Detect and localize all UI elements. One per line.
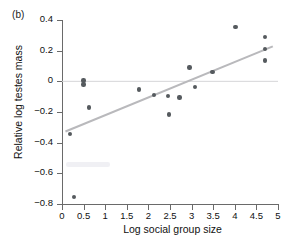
y-tick-label: 0.2 (19, 44, 53, 55)
x-axis-title: Log social group size (62, 223, 283, 235)
y-tick-label: −0.2 (19, 105, 53, 116)
data-point (210, 70, 214, 74)
y-tick-label: −0.8 (19, 197, 53, 208)
y-tick-label: 0 (19, 74, 53, 85)
x-tick-label: 5 (265, 210, 284, 221)
y-tick-label: −0.6 (19, 166, 53, 177)
data-point (263, 58, 267, 62)
y-tick-label: −0.4 (19, 136, 53, 147)
scatter-plot-figure: (b) Relative log testes mass Log social … (0, 0, 284, 245)
data-point (187, 65, 191, 69)
data-point (166, 94, 170, 98)
y-tick-label: 0.4 (19, 13, 53, 24)
data-point (167, 112, 171, 116)
data-point (233, 25, 237, 29)
data-point (137, 87, 141, 91)
data-point (81, 82, 85, 86)
data-point (177, 95, 181, 99)
regression-line (65, 46, 272, 131)
y-axis-title: Relative log testes mass (12, 17, 24, 187)
data-point (87, 105, 91, 109)
data-point (193, 85, 197, 89)
